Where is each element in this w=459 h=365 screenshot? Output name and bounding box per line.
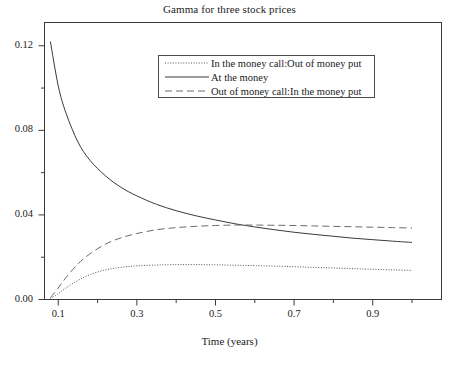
y-tick-label: 0.12	[0, 39, 33, 50]
legend-item-in-the-money-call: In the money call:Out of money put	[159, 56, 374, 70]
y-tick-label: 0.00	[0, 293, 33, 304]
legend-item-at-the-money: At the money	[159, 70, 374, 84]
x-tick-label: 0.7	[274, 308, 314, 319]
legend-label: In the money call:Out of money put	[211, 58, 361, 69]
dotted-line-sample	[164, 57, 210, 69]
legend-label: At the money	[211, 72, 268, 83]
dashed-line-sample	[164, 85, 210, 97]
x-axis-label: Time (years)	[0, 335, 459, 347]
series-line	[50, 265, 412, 299]
solid-line-sample	[164, 71, 210, 83]
y-tick-label: 0.08	[0, 123, 33, 134]
x-tick-label: 0.3	[117, 308, 157, 319]
chart-legend: In the money call:Out of money put At th…	[158, 55, 375, 98]
x-tick-label: 0.1	[38, 308, 78, 319]
x-tick-label: 0.5	[195, 308, 235, 319]
legend-label: Out of money call:In the money put	[211, 86, 361, 97]
y-tick-label: 0.04	[0, 208, 33, 219]
chart-figure: Gamma for three stock prices 0.000.040.0…	[0, 0, 459, 365]
x-tick-label: 0.9	[353, 308, 393, 319]
series-line	[50, 225, 412, 298]
legend-item-out-of-money-call: Out of money call:In the money put	[159, 84, 374, 98]
